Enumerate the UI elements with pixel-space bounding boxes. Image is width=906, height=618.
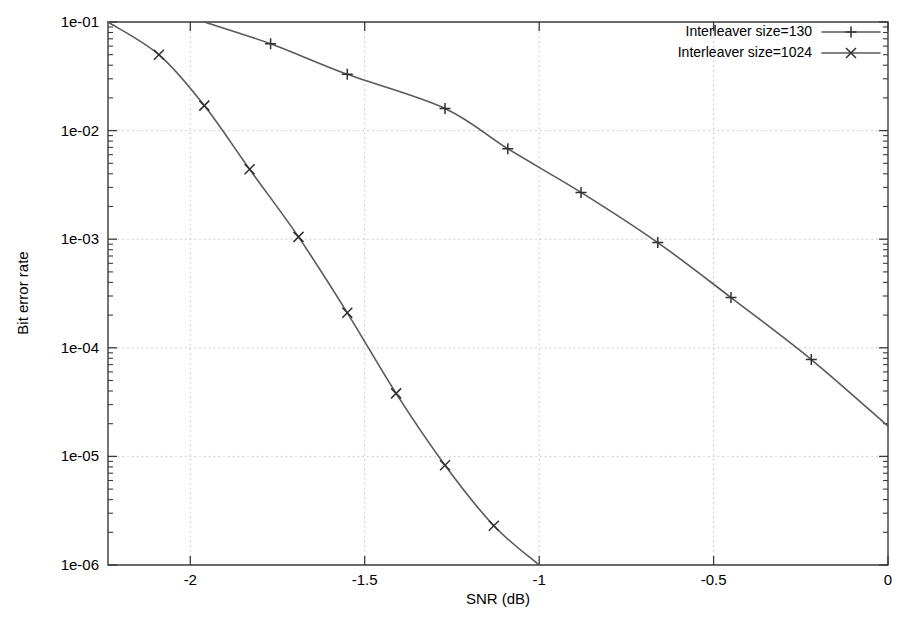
chart-container: 1e-011e-021e-031e-041e-051e-06 -2-1.5-1-… [0, 0, 906, 618]
x-tick-label-0: -2 [184, 571, 197, 588]
legend-label-1: Interleaver size=1024 [678, 44, 812, 60]
x-tick-label-3: -0.5 [701, 571, 727, 588]
y-tick-label-2: 1e-03 [61, 230, 99, 247]
chart-background [0, 0, 906, 618]
x-axis-title: SNR (dB) [466, 590, 530, 607]
x-tick-label-4: 0 [884, 571, 892, 588]
y-tick-label-5: 1e-06 [61, 556, 99, 573]
y-tick-label-0: 1e-01 [61, 13, 99, 30]
legend-label-0: Interleaver size=130 [686, 23, 813, 39]
y-tick-label-1: 1e-02 [61, 122, 99, 139]
y-tick-label-3: 1e-04 [61, 339, 99, 356]
x-tick-label-2: -1 [533, 571, 546, 588]
ber-vs-snr-chart: 1e-011e-021e-031e-041e-051e-06 -2-1.5-1-… [0, 0, 906, 618]
y-axis-title: Bit error rate [14, 251, 31, 334]
x-tick-label-1: -1.5 [352, 571, 378, 588]
y-tick-label-4: 1e-05 [61, 447, 99, 464]
